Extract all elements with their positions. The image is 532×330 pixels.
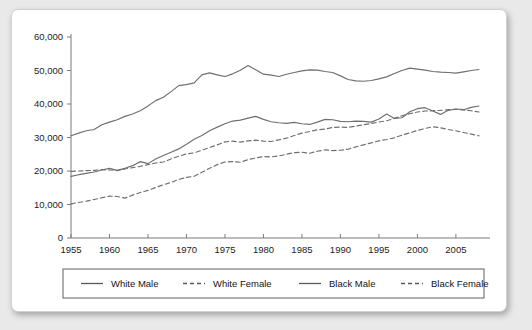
figure-card: 010,00020,00030,00040,00050,00060,000 19… [11,9,507,312]
y-tick-label: 50,000 [34,65,63,76]
x-tick-label: 1995 [368,244,389,255]
x-tick-label: 1990 [330,244,351,255]
legend-label: White Male [111,278,159,289]
legend-label: White Female [213,278,272,289]
y-tick-label: 30,000 [34,132,63,143]
x-tick-label: 1975 [214,244,235,255]
data-series-group [71,65,479,203]
y-tick-label: 0 [58,232,63,243]
x-tick-label: 1955 [60,244,81,255]
series-white-male [71,65,479,135]
y-tick-label: 60,000 [34,31,63,42]
x-tick-label: 1965 [137,244,158,255]
x-axis-tick-labels: 1955196019651970197519801985199019952000… [60,244,466,255]
x-tick-label: 1980 [253,244,274,255]
tick-marks [67,37,456,238]
y-axis-tick-labels: 010,00020,00030,00040,00050,00060,000 [34,31,63,243]
y-tick-label: 10,000 [34,199,63,210]
x-tick-label: 1960 [99,244,120,255]
series-white-female [71,109,479,171]
y-tick-label: 40,000 [34,98,63,109]
chart-legend: White MaleWhite FemaleBlack MaleBlack Fe… [63,269,489,298]
series-black-male [71,106,479,176]
legend-label: Black Male [329,278,375,289]
line-chart: 010,00020,00030,00040,00050,00060,000 19… [12,10,508,313]
x-tick-label: 1970 [176,244,197,255]
x-tick-label: 2005 [445,244,466,255]
axis-lines [71,34,490,238]
x-tick-label: 1985 [291,244,312,255]
axis-lines [71,34,490,238]
y-tick-label: 20,000 [34,165,63,176]
x-tick-label: 2000 [407,244,428,255]
legend-label: Black Female [431,278,489,289]
